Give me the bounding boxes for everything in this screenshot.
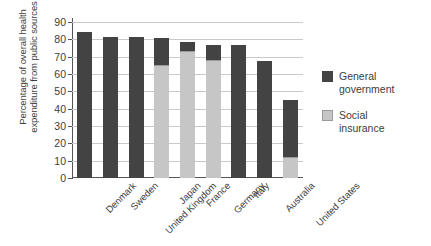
y-tick-label: 80 [54, 33, 66, 45]
bar-segment-general-government[interactable] [257, 61, 272, 178]
bar-group[interactable] [129, 22, 144, 178]
bar-segment-general-government[interactable] [77, 32, 92, 178]
bar-segment-general-government[interactable] [180, 42, 195, 51]
legend-entry[interactable]: Generalgovernment [322, 70, 428, 95]
bar-segment-social-insurance[interactable] [283, 157, 298, 178]
bar-series-container [72, 22, 303, 178]
bar-group[interactable] [103, 22, 118, 178]
bar-group[interactable] [257, 22, 272, 178]
bar-group[interactable] [180, 22, 195, 178]
bar-segment-general-government[interactable] [154, 38, 169, 66]
bar-group[interactable] [206, 22, 221, 178]
chart-figure: Percentage of overall health expenditure… [0, 0, 431, 246]
chart-legend: GeneralgovernmentSocialinsurance [322, 70, 428, 148]
bar-segment-social-insurance[interactable] [180, 51, 195, 178]
y-tick-label: 90 [54, 16, 66, 28]
legend-label-line1: General [339, 70, 394, 83]
legend-label: Generalgovernment [339, 70, 394, 95]
bar-group[interactable] [231, 22, 246, 178]
y-tick-mark [68, 178, 72, 179]
bar-group[interactable] [154, 22, 169, 178]
dark-grey-swatch [322, 71, 333, 82]
bar-segment-social-insurance[interactable] [206, 60, 221, 178]
bar-segment-general-government[interactable] [283, 100, 298, 157]
bar-segment-general-government[interactable] [206, 45, 221, 60]
x-tick-label: Australia [282, 180, 316, 214]
plot-area: 9080706050403020100 [72, 22, 303, 178]
x-tick-labels: DenmarkSwedenUnited KingdomJapanFranceGe… [72, 180, 303, 246]
y-axis-title-line1: Percentage of overall health [17, 1, 29, 133]
y-tick-label: 50 [54, 85, 66, 97]
light-grey-swatch [322, 110, 333, 121]
legend-label-line2: government [339, 83, 394, 96]
bar-segment-social-insurance[interactable] [154, 65, 169, 178]
x-tick-label: United States [314, 180, 362, 228]
bar-segment-general-government[interactable] [103, 37, 118, 178]
y-tick-label: 0 [60, 172, 66, 184]
y-tick-label: 10 [54, 155, 66, 167]
legend-label: Socialinsurance [339, 109, 385, 134]
bar-group[interactable] [77, 22, 92, 178]
y-tick-label: 40 [54, 103, 66, 115]
y-tick-label: 20 [54, 137, 66, 149]
legend-entry[interactable]: Socialinsurance [322, 109, 428, 134]
bar-group[interactable] [283, 22, 298, 178]
bar-segment-general-government[interactable] [129, 37, 144, 178]
bar-segment-general-government[interactable] [231, 45, 246, 178]
y-axis-title-line2: expenditure from public sources [28, 1, 40, 133]
legend-label-line1: Social [339, 109, 385, 122]
y-tick-label: 70 [54, 51, 66, 63]
y-tick-label: 60 [54, 68, 66, 80]
y-tick-label: 30 [54, 120, 66, 132]
legend-label-line2: insurance [339, 122, 385, 135]
y-axis-title: Percentage of overall health expenditure… [11, 0, 45, 157]
